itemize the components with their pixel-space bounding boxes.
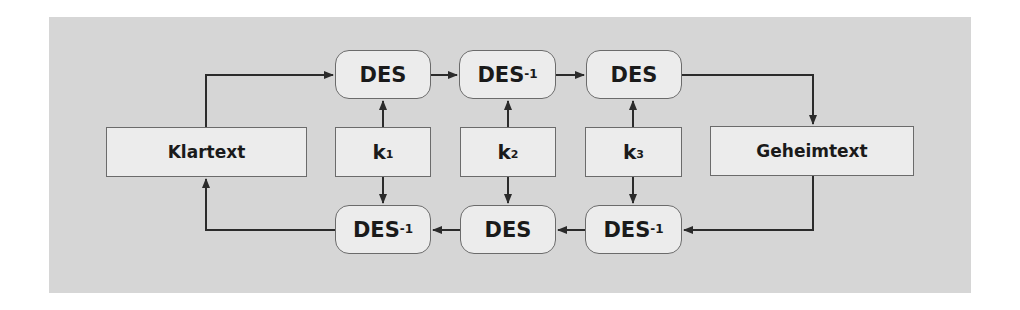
encrypt-des-2-exponent: -1: [524, 67, 537, 81]
key-1-index: 1: [386, 148, 394, 161]
decrypt-des-inverse-1: DES-1: [335, 205, 431, 254]
key-1-box: k1: [335, 127, 431, 177]
decrypt-des-1-exponent: -1: [400, 222, 413, 236]
encrypt-des-3: DES: [586, 50, 682, 99]
key-2-label: k: [498, 140, 511, 164]
key-2-index: 2: [511, 148, 519, 161]
decrypt-des-1-label: DES: [353, 218, 400, 242]
key-3-box: k3: [585, 127, 682, 177]
key-1-label: k: [373, 140, 386, 164]
encrypt-des-2-label: DES: [477, 63, 524, 87]
decrypt-des-2-label: DES: [485, 218, 532, 242]
plaintext-label: Klartext: [168, 142, 246, 162]
key-2-box: k2: [460, 127, 556, 177]
encrypt-des-inverse-2: DES-1: [459, 50, 556, 99]
decrypt-des-inverse-3: DES-1: [585, 205, 682, 254]
ciphertext-box: Geheimtext: [710, 126, 914, 176]
decrypt-des-3-exponent: -1: [650, 222, 663, 236]
key-3-index: 3: [636, 148, 644, 161]
ciphertext-label: Geheimtext: [756, 141, 867, 161]
encrypt-des-1: DES: [335, 50, 431, 99]
decrypt-des-3-label: DES: [603, 218, 650, 242]
decrypt-des-2: DES: [460, 205, 556, 254]
encrypt-des-3-label: DES: [611, 63, 658, 87]
plaintext-box: Klartext: [106, 127, 307, 177]
encrypt-des-1-label: DES: [360, 63, 407, 87]
key-3-label: k: [623, 140, 636, 164]
